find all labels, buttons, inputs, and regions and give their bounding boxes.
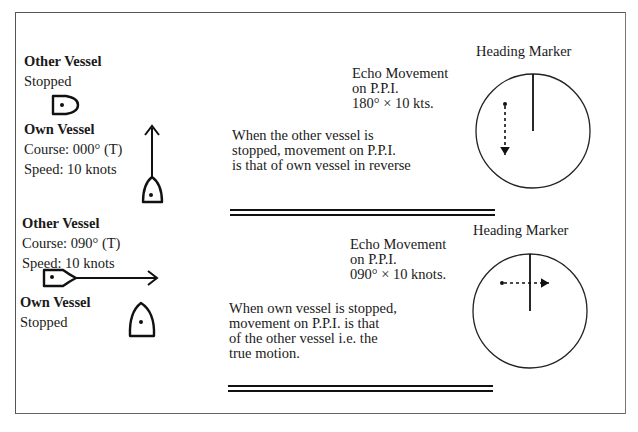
p1-ppi-display: [476, 74, 590, 188]
p1-other-vessel-icon: [53, 96, 78, 114]
p2-ppi-display: [473, 254, 587, 368]
p1-own-vessel-icon: [143, 126, 162, 202]
diagram-artwork: [0, 0, 638, 432]
p2-other-vessel-icon: [44, 270, 157, 286]
p2-own-vessel-icon: [130, 303, 154, 336]
